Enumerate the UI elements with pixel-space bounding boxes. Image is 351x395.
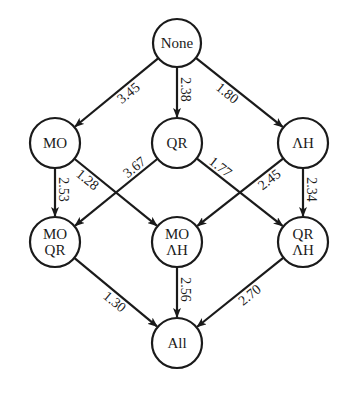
edge-weight-label: 2.56 [178, 277, 193, 302]
edge-weight-label: 2.34 [304, 177, 319, 202]
node-label: All [167, 335, 186, 351]
edge-weight-label: 1.80 [213, 80, 242, 107]
node-label: ΛH [166, 242, 188, 258]
edge-mo-to-mo_qr: 2.53 [55, 168, 71, 216]
node-label: QR [293, 226, 314, 242]
edge-weight-label: 1.77 [206, 154, 235, 181]
edge-weight-label: 1.28 [73, 166, 101, 193]
node-label: QR [167, 135, 188, 151]
edge-weight-label: 2.53 [56, 177, 71, 202]
node-qr_ah: QRΛH [278, 217, 328, 267]
edge-qr_ah-to-all: 2.70 [197, 258, 283, 327]
edge-weight-label: 3.67 [120, 154, 148, 181]
edge-weight-label: 1.30 [100, 288, 128, 315]
edges: 3.452.381.802.531.283.671.772.452.341.30… [55, 58, 319, 327]
node-label: ΛH [292, 242, 314, 258]
edge-ah-to-qr_ah: 2.34 [303, 168, 319, 216]
node-mo_ah: MOΛH [152, 217, 202, 267]
node-none: None [153, 19, 201, 67]
node-label: ΛH [292, 135, 314, 151]
edge-none-to-mo: 3.45 [75, 58, 158, 126]
edge-none-to-ah: 1.80 [196, 58, 283, 127]
node-label: QR [45, 242, 66, 258]
node-label: MO [43, 135, 67, 151]
edge-weight-label: 2.38 [178, 77, 193, 102]
edge-weight-label: 2.70 [235, 281, 263, 308]
node-label: None [161, 35, 194, 51]
node-label: MO [165, 226, 189, 242]
node-mo: MO [30, 118, 80, 168]
edge-mo_qr-to-all: 1.30 [74, 258, 157, 326]
node-qr: QR [152, 118, 202, 168]
node-mo_qr: MOQR [30, 217, 80, 267]
edge-weight-label: 2.45 [255, 166, 284, 193]
node-label: MO [43, 226, 67, 242]
edge-mo_ah-to-all: 2.56 [177, 267, 193, 317]
edge-none-to-qr: 2.38 [177, 67, 193, 117]
node-all: All [152, 318, 202, 368]
nodes: NoneMOQRΛHMOQRMOΛHQRΛHAll [30, 19, 328, 368]
lattice-diagram: 3.452.381.802.531.283.671.772.452.341.30… [0, 0, 351, 395]
node-ah: ΛH [278, 118, 328, 168]
edge-weight-label: 3.45 [114, 80, 142, 107]
